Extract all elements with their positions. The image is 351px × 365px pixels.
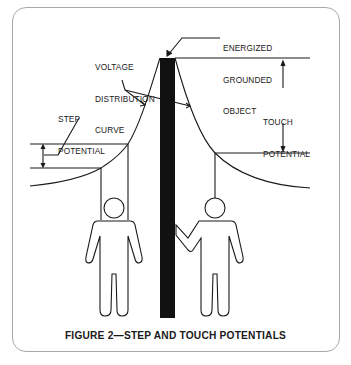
step-potential-label: STEP POTENTIAL [58,93,105,167]
energized-object-leader [168,38,220,55]
left-person [86,198,142,316]
right-person [176,198,243,316]
touch-potential-label: TOUCH POTENTIAL [263,96,310,170]
step-touch-diagram [0,0,351,365]
energized-pole [160,58,175,318]
figure-caption: FIGURE 2—STEP AND TOUCH POTENTIALS [0,330,351,341]
